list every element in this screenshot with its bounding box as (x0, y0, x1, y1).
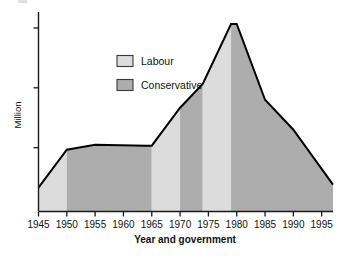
x-axis-tick-labels: 1945195019551960196519701975198019851990… (27, 219, 333, 230)
x-tick-label-1970: 1970 (169, 219, 192, 230)
legend-swatch-conservative (117, 80, 133, 91)
x-tick-label-1965: 1965 (141, 219, 164, 230)
x-tick-label-1985: 1985 (254, 219, 277, 230)
x-tick-label-1950: 1950 (56, 219, 79, 230)
x-tick-label-1990: 1990 (282, 219, 305, 230)
scan-artifact (18, 0, 27, 3)
x-tick-label-1980: 1980 (226, 219, 249, 230)
legend-swatch-labour (117, 56, 133, 67)
x-tick-label-1960: 1960 (112, 219, 135, 230)
area-chart-svg: 1945195019551960196519701975198019851990… (0, 0, 343, 258)
x-tick-label-1955: 1955 (84, 219, 107, 230)
legend-label-conservative: Conservative (141, 79, 202, 91)
y-axis-title: Million (12, 102, 23, 129)
x-tick-label-1945: 1945 (27, 219, 50, 230)
legend-label-labour: Labour (141, 55, 174, 67)
chart-figure: 1945195019551960196519701975198019851990… (0, 0, 343, 258)
x-tick-label-1975: 1975 (197, 219, 220, 230)
x-axis-title: Year and government (134, 234, 236, 245)
legend-item-labour[interactable]: Labour (117, 55, 174, 67)
x-tick-label-1995: 1995 (311, 219, 334, 230)
legend-item-conservative[interactable]: Conservative (117, 79, 202, 91)
